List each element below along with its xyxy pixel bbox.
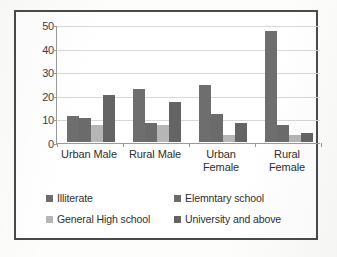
bar [289, 135, 301, 142]
y-axis-tick-mark [53, 97, 57, 98]
legend-swatch-icon [46, 216, 53, 223]
bar [169, 102, 181, 142]
x-axis-tick-mark [189, 143, 190, 147]
x-axis-tick-mark [321, 143, 322, 147]
legend-label: Elemntary school [185, 192, 264, 204]
x-axis-tick-mark [255, 143, 256, 147]
bar [79, 118, 91, 142]
bar [157, 125, 169, 142]
x-axis-tick-mark [57, 143, 58, 147]
legend-swatch-icon [174, 216, 181, 223]
legend-label: Illiterate [57, 192, 93, 204]
bar [235, 123, 247, 142]
y-axis: 01020304050 [30, 26, 54, 144]
y-axis-tick-label: 20 [30, 91, 54, 103]
chart-figure: 01020304050 Urban MaleRural MaleUrbanFem… [0, 0, 337, 257]
legend-item[interactable]: Illiterate [46, 192, 93, 204]
y-axis-tick-mark [53, 120, 57, 121]
x-axis-category-label: RuralFemale [257, 148, 317, 174]
x-axis-category-labels: Urban MaleRural MaleUrbanFemaleRuralFema… [56, 148, 320, 186]
legend-item[interactable]: Elemntary school [174, 192, 264, 204]
bar [301, 133, 313, 142]
bar-group [58, 26, 124, 142]
y-axis-tick-mark [53, 26, 57, 27]
y-axis-tick-label: 0 [30, 138, 54, 150]
bar-series-container [58, 26, 320, 142]
plot-wrapper: 01020304050 Urban MaleRural MaleUrbanFem… [16, 12, 316, 238]
bar-group [256, 26, 322, 142]
bar [223, 135, 235, 142]
bar-group [190, 26, 256, 142]
chart-frame: 01020304050 Urban MaleRural MaleUrbanFem… [14, 10, 318, 240]
y-axis-tick-label: 50 [30, 20, 54, 32]
x-axis-category-label: Rural Male [118, 148, 192, 161]
y-axis-tick-mark [53, 73, 57, 74]
bar [265, 31, 277, 142]
bar [133, 89, 145, 142]
bar [145, 123, 157, 142]
y-axis-tick-mark [53, 50, 57, 51]
x-axis-category-label: UrbanFemale [191, 148, 251, 174]
legend-swatch-icon [174, 195, 181, 202]
x-axis-category-label: Urban Male [52, 148, 126, 161]
legend-label: General High school [57, 213, 150, 225]
bar [67, 116, 79, 142]
chart-legend: IlliterateElemntary schoolGeneral High s… [46, 192, 296, 234]
plot-area [56, 26, 320, 144]
legend-item[interactable]: University and above [174, 213, 281, 225]
x-axis-tick-mark [123, 143, 124, 147]
y-axis-tick-label: 10 [30, 114, 54, 126]
bar [199, 85, 211, 142]
legend-item[interactable]: General High school [46, 213, 150, 225]
legend-swatch-icon [46, 195, 53, 202]
bar [277, 125, 289, 142]
y-axis-tick-label: 40 [30, 44, 54, 56]
legend-label: University and above [185, 213, 281, 225]
bar [103, 95, 115, 142]
bar [91, 125, 103, 142]
bar [211, 114, 223, 142]
y-axis-tick-label: 30 [30, 67, 54, 79]
bar-group [124, 26, 190, 142]
